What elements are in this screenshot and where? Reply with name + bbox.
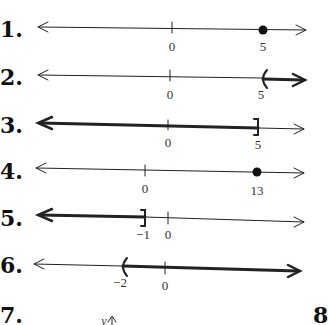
number-line-4 [36, 163, 304, 178]
shaded-ray [40, 123, 258, 128]
shaded-ray [40, 215, 145, 217]
tick-label: −2 [113, 275, 127, 290]
tick-label: 5 [258, 87, 265, 102]
tick-label: 13 [251, 183, 264, 198]
number-line-6 [34, 258, 300, 277]
closed-dot-icon [259, 26, 268, 35]
number-line-5 [38, 209, 304, 227]
tick-label: −1 [136, 227, 150, 242]
tick-label: 0 [142, 181, 149, 196]
tick-label: 0 [169, 39, 176, 54]
y-axis-label: y [100, 314, 107, 325]
tick-label: 0 [165, 135, 172, 150]
tick-label: 0 [167, 87, 174, 102]
shaded-ray [123, 266, 298, 271]
tick-label: 0 [165, 227, 172, 242]
tick-label: 5 [260, 39, 267, 54]
closed-dot-icon [253, 168, 262, 177]
number-line-3 [38, 117, 304, 135]
y-axis-7 [108, 316, 116, 325]
number-line-2 [38, 70, 305, 88]
tick-label: 0 [162, 278, 169, 293]
shaded-ray [263, 79, 303, 80]
number-line-1 [38, 22, 306, 35]
tick-label: 5 [255, 137, 262, 152]
